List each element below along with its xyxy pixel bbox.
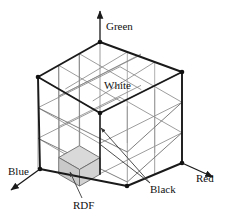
black-vertex-label: Black: [150, 184, 176, 195]
green-axis-label: Green: [106, 21, 133, 32]
white-vertex-label: White: [104, 80, 131, 91]
red-axis-label: Red: [196, 173, 214, 184]
cube-diagram: [0, 0, 235, 217]
blue-axis-label: Blue: [8, 166, 29, 177]
rgb-color-cube-figure: Green White Blue Red Black RDF: [0, 0, 235, 217]
rdf-cell-label: RDF: [73, 200, 94, 211]
